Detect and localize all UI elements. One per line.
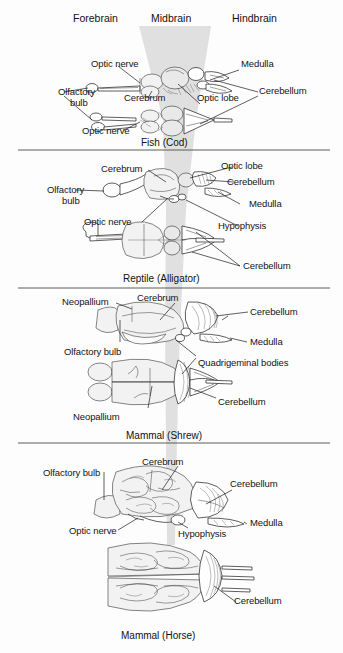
header-label-hindbrain: Hindbrain bbox=[232, 12, 277, 24]
label-fish-optic-lobe: Optic lobe bbox=[197, 92, 239, 103]
caption-horse: Mammal (Horse) bbox=[121, 630, 195, 641]
reptile-dorsal-drawing bbox=[83, 222, 224, 259]
label-shrew-quadrigeminal-bodies: Quadrigeminal bodies bbox=[198, 357, 288, 368]
brain-comparison-figure: Forebrain Midbrain Hindbrain Optic nerve… bbox=[0, 0, 343, 653]
label-horse-cerebellum-top: Cerebellum bbox=[230, 478, 278, 489]
label-horse-medulla: Medulla bbox=[250, 517, 283, 528]
label-horse-cerebellum-bottom: Cerebellum bbox=[234, 595, 282, 606]
label-shrew-neopallium-bottom: Neopallium bbox=[73, 411, 120, 422]
label-shrew-medulla: Medulla bbox=[250, 336, 283, 347]
figure-artwork bbox=[0, 0, 343, 653]
label-horse-olfactory-bulb: Olfactory bulb bbox=[43, 467, 100, 478]
caption-reptile: Reptile (Alligator) bbox=[123, 273, 200, 284]
shrew-lateral-drawing bbox=[96, 302, 232, 344]
label-horse-optic-nerve: Optic nerve bbox=[69, 525, 116, 536]
label-reptile-olfactory-bulb-line2: bulb bbox=[62, 195, 80, 206]
label-fish-olfactory-bulb-line2: bulb bbox=[70, 97, 88, 108]
header-label-midbrain: Midbrain bbox=[151, 12, 191, 24]
label-shrew-cerebellum-bottom: Cerebellum bbox=[218, 396, 266, 407]
label-shrew-cerebellum-top: Cerebellum bbox=[250, 306, 298, 317]
label-shrew-olfactory-bulb: Olfactory bulb bbox=[64, 346, 121, 357]
label-fish-optic-nerve-top: Optic nerve bbox=[91, 58, 138, 69]
label-reptile-medulla: Medulla bbox=[249, 198, 282, 209]
label-fish-cerebellum: Cerebellum bbox=[259, 85, 307, 96]
label-reptile-olfactory-bulb-line1: Olfactory bbox=[47, 184, 84, 195]
label-horse-hypophysis: Hypophysis bbox=[178, 528, 226, 539]
horse-dorsal-drawing bbox=[108, 543, 254, 611]
header-label-forebrain: Forebrain bbox=[73, 12, 118, 24]
label-shrew-neopallium-top: Neopallium bbox=[62, 296, 109, 307]
caption-fish: Fish (Cod) bbox=[141, 137, 188, 148]
label-reptile-hypophysis: Hypophysis bbox=[218, 220, 266, 231]
label-fish-optic-nerve-bottom: Optic nerve bbox=[82, 125, 129, 136]
label-fish-cerebrum: Cerebrum bbox=[124, 92, 165, 103]
label-reptile-optic-lobe: Optic lobe bbox=[221, 160, 263, 171]
label-reptile-optic-nerve: Optic nerve bbox=[84, 216, 131, 227]
label-reptile-cerebellum-top: Cerebellum bbox=[227, 176, 275, 187]
label-reptile-cerebellum-bottom: Cerebellum bbox=[243, 260, 291, 271]
label-shrew-cerebrum: Cerebrum bbox=[137, 292, 178, 303]
label-fish-olfactory-bulb-line1: Olfactory bbox=[58, 86, 95, 97]
label-reptile-cerebrum: Cerebrum bbox=[101, 163, 142, 174]
label-fish-medulla: Medulla bbox=[241, 58, 274, 69]
label-horse-cerebrum: Cerebrum bbox=[142, 456, 183, 467]
caption-shrew: Mammal (Shrew) bbox=[126, 430, 202, 441]
